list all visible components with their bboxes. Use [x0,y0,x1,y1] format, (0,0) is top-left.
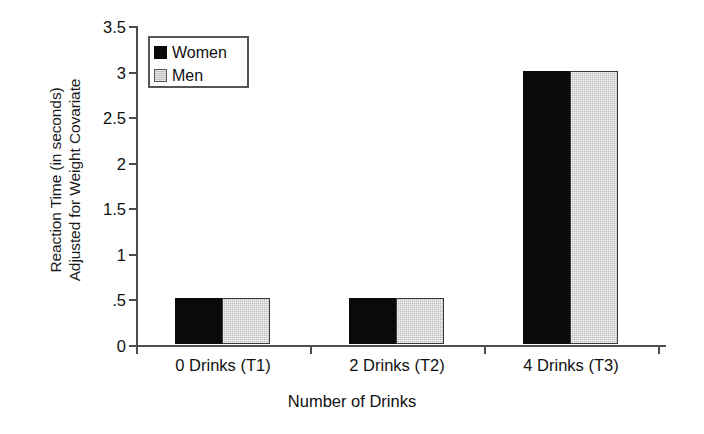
x-tick-boundary-2 [484,345,486,354]
y-tick-label-2: 2 [117,154,126,173]
y-tick-2-5 [129,117,136,119]
y-tick-3-5 [129,26,136,28]
legend-swatch-women-icon [154,46,167,59]
legend: Women Men [148,36,249,88]
y-tick-label-0-5: .5 [112,291,126,310]
bar-women-2-drinks [349,298,396,344]
y-tick-label-1: 1 [117,245,126,264]
x-axis-line [136,345,666,347]
y-axis-title-line-2: Adjusted for Weight Covariate [65,79,84,282]
bar-chart-figure: Reaction Time (in seconds) Adjusted for … [0,0,704,434]
y-tick-label-0: 0 [117,337,126,356]
y-tick-label-2-5: 2.5 [103,109,126,128]
bar-men-0-drinks [222,298,270,344]
y-tick-3 [129,72,136,74]
x-tick-boundary-0 [136,345,138,354]
bar-women-0-drinks [175,298,222,344]
bar-women-4-drinks [523,71,570,344]
y-axis-title-line-1: Reaction Time (in seconds) [46,79,65,282]
y-tick-label-3: 3 [117,63,126,82]
y-tick-1 [129,254,136,256]
x-tick-boundary-3 [658,345,660,354]
x-axis-title: Number of Drinks [0,392,704,411]
x-category-label-1: 2 Drinks (T2) [349,356,444,375]
x-tick-boundary-1 [310,345,312,354]
bar-men-2-drinks [396,298,444,344]
y-tick-label-3-5: 3.5 [103,18,126,37]
y-tick-1-5 [129,208,136,210]
legend-label-men: Men [172,67,203,84]
bar-men-4-drinks [570,71,618,344]
x-category-label-0: 0 Drinks (T1) [175,356,270,375]
y-tick-0-5 [129,299,136,301]
y-axis-line [136,26,138,346]
x-category-label-2: 4 Drinks (T3) [523,356,618,375]
legend-label-women: Women [172,44,227,61]
legend-swatch-men-icon [154,69,167,82]
y-tick-2 [129,163,136,165]
y-tick-label-1-5: 1.5 [103,200,126,219]
y-axis-title: Reaction Time (in seconds) Adjusted for … [0,0,130,360]
plot-area: 0 .5 1 1.5 2 2.5 3 3.5 [136,26,665,345]
legend-row-women: Women [154,41,243,64]
legend-row-men: Men [154,64,243,87]
